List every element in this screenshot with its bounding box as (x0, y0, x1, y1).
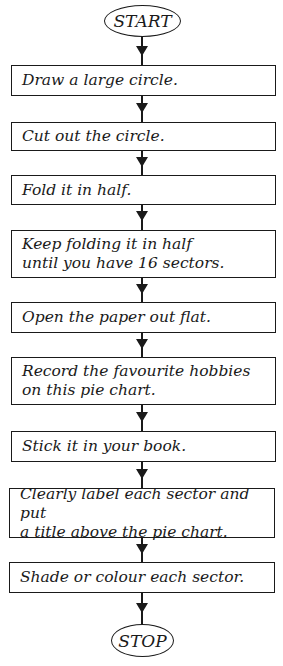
step-8-box: Clearly label each sector and put a titl… (9, 488, 275, 538)
step-7-box: Stick it in your book. (11, 431, 276, 462)
step-3-label: Fold it in half. (22, 181, 131, 200)
step-6-box: Record the favourite hobbies on this pie… (11, 357, 276, 405)
step-1-box: Draw a large circle. (11, 65, 276, 96)
arrow-down-icon (136, 412, 148, 422)
step-6-label: Record the favourite hobbies on this pie… (22, 362, 250, 400)
stop-label: STOP (118, 631, 166, 651)
step-3-box: Fold it in half. (11, 175, 276, 205)
step-7-label: Stick it in your book. (22, 437, 186, 456)
step-4-label: Keep folding it in half until you have 1… (22, 235, 224, 273)
arrow-down-icon (136, 339, 148, 349)
arrow-down-icon (136, 46, 148, 56)
step-5-box: Open the paper out flat. (11, 302, 276, 333)
step-2-box: Cut out the circle. (11, 122, 276, 151)
arrow-down-icon (136, 603, 148, 613)
arrow-down-icon (136, 103, 148, 113)
arrow-down-icon (136, 544, 148, 554)
step-5-label: Open the paper out flat. (22, 308, 211, 327)
arrow-down-icon (136, 469, 148, 479)
stop-terminal: STOP (111, 624, 174, 657)
arrow-down-icon (136, 211, 148, 221)
step-4-box: Keep folding it in half until you have 1… (11, 230, 276, 278)
arrow-down-icon (136, 157, 148, 167)
arrow-down-icon (136, 284, 148, 294)
step-1-label: Draw a large circle. (22, 71, 178, 90)
start-label: START (113, 11, 171, 31)
start-terminal: START (104, 5, 181, 37)
step-9-label: Shade or colour each sector. (20, 568, 244, 587)
step-8-label: Clearly label each sector and put a titl… (20, 485, 264, 542)
step-9-box: Shade or colour each sector. (9, 562, 275, 593)
step-2-label: Cut out the circle. (22, 127, 165, 146)
